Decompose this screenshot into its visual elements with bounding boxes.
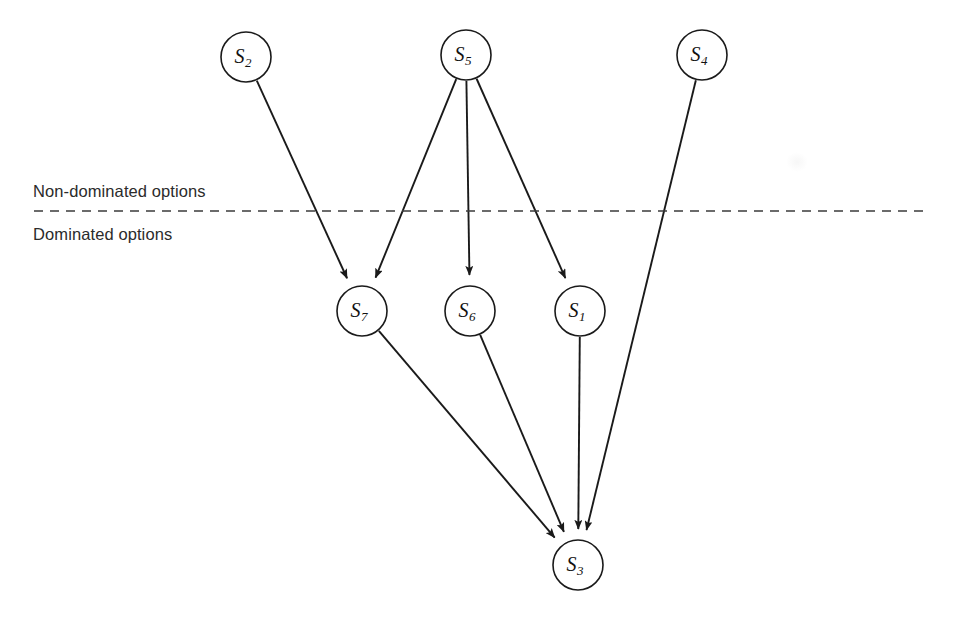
node-s4[interactable]: S4 bbox=[677, 30, 727, 80]
dominance-graph-canvas: S2S5S4S7S6S1S3 Non-dominated options Dom… bbox=[0, 0, 960, 619]
node-s3[interactable]: S3 bbox=[553, 540, 603, 590]
nodes-layer: S2S5S4S7S6S1S3 bbox=[221, 30, 727, 590]
non-dominated-region-label: Non-dominated options bbox=[33, 182, 206, 200]
dominated-region-label: Dominated options bbox=[33, 225, 172, 243]
edge-s5-to-s7 bbox=[376, 79, 457, 278]
node-s6[interactable]: S6 bbox=[445, 286, 495, 336]
dominance-diagram: S2S5S4S7S6S1S3 Non-dominated options Dom… bbox=[0, 0, 960, 619]
node-s7[interactable]: S7 bbox=[337, 286, 387, 336]
node-s2[interactable]: S2 bbox=[221, 32, 271, 82]
node-s5[interactable]: S5 bbox=[441, 30, 491, 80]
edge-s7-to-s3 bbox=[379, 331, 555, 538]
edge-s1-to-s3 bbox=[578, 337, 580, 529]
node-s1[interactable]: S1 bbox=[555, 286, 605, 336]
edge-s5-to-s6 bbox=[466, 81, 469, 275]
edge-s6-to-s3 bbox=[480, 335, 564, 532]
edge-s2-to-s7 bbox=[257, 81, 347, 279]
edge-s5-to-s1 bbox=[477, 79, 566, 278]
